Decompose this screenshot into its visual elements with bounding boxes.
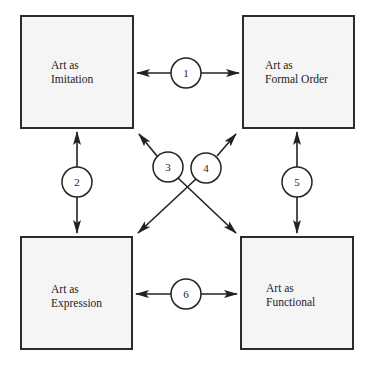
box-functional: Art as Functional bbox=[241, 237, 353, 349]
connector-1-label: 1 bbox=[183, 67, 189, 79]
box-formal-order-line1: Art as bbox=[265, 59, 293, 71]
box-expression-line2: Expression bbox=[51, 297, 102, 310]
connector-3-node: 3 bbox=[153, 152, 183, 182]
box-formal-order-rect bbox=[243, 16, 354, 128]
box-imitation: Art as Imitation bbox=[21, 16, 133, 128]
box-functional-line2: Functional bbox=[266, 296, 315, 308]
connector-5-label: 5 bbox=[294, 176, 300, 188]
box-expression-line1: Art as bbox=[51, 283, 79, 295]
connector-4-label: 4 bbox=[203, 162, 209, 174]
box-imitation-line2: Imitation bbox=[51, 73, 93, 85]
connector-2: 2 bbox=[62, 132, 92, 233]
connector-4-node: 4 bbox=[191, 153, 221, 183]
box-formal-order: Art as Formal Order bbox=[243, 16, 354, 128]
connector-6: 6 bbox=[136, 279, 237, 309]
box-functional-rect bbox=[241, 237, 353, 349]
box-imitation-line1: Art as bbox=[51, 59, 79, 71]
connector-6-label: 6 bbox=[183, 288, 189, 300]
box-functional-line1: Art as bbox=[266, 282, 294, 294]
art-theories-diagram: Art as Imitation Art as Formal Order Art… bbox=[0, 0, 371, 370]
arrow-up-right-icon bbox=[217, 134, 236, 156]
connector-2-label: 2 bbox=[74, 176, 80, 188]
connector-5: 5 bbox=[282, 132, 312, 233]
arrow-down-left-icon bbox=[138, 179, 196, 233]
connector-1: 1 bbox=[137, 58, 239, 88]
box-formal-order-line2: Formal Order bbox=[265, 73, 328, 85]
arrow-down-right-icon bbox=[178, 178, 236, 233]
box-expression: Art as Expression bbox=[21, 237, 132, 349]
connector-3-label: 3 bbox=[165, 161, 171, 173]
arrow-up-left-icon bbox=[139, 134, 157, 156]
box-imitation-rect bbox=[21, 16, 133, 128]
